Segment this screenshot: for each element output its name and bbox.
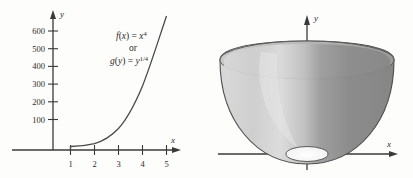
x-tick-label-5: 5 — [164, 159, 168, 169]
y-tick-label-200: 200 — [32, 97, 45, 107]
y-tick-label-100: 100 — [32, 115, 45, 125]
y-axis-arrowhead — [50, 10, 56, 19]
paraboloid-inner-shading — [224, 44, 390, 158]
x-tick-label-3: 3 — [116, 159, 120, 169]
y-tick-label-500: 500 — [32, 44, 45, 54]
equation-line-3: g(y) = y1/4 — [110, 55, 149, 67]
y-tick-labels: 600 500 400 300 200 100 — [32, 26, 45, 125]
x-axis-label: x — [170, 135, 175, 145]
x-axis-arrowhead — [389, 151, 398, 157]
y-axis-arrowhead — [304, 15, 310, 25]
y-axis-label: y — [313, 13, 318, 23]
y-tick-label-300: 300 — [32, 79, 45, 89]
x-tick-label-2: 2 — [92, 159, 96, 169]
x-axis — [12, 147, 181, 153]
bottom-hole-ellipse — [286, 147, 328, 162]
x-axis-arrowhead — [172, 147, 181, 153]
figure-root: 600 500 400 300 200 100 1 2 3 4 5 y x — [0, 0, 413, 178]
equation-line-2: or — [129, 43, 138, 53]
left-graph-panel: 600 500 400 300 200 100 1 2 3 4 5 y x — [0, 0, 206, 178]
right-solid-panel: y x — [206, 0, 413, 178]
y-axis-label: y — [59, 9, 64, 19]
x-tick-label-4: 4 — [140, 159, 145, 169]
x-axis-label: x — [386, 139, 391, 149]
y-tick-label-400: 400 — [32, 61, 45, 71]
x-tick-label-1: 1 — [68, 159, 72, 169]
x-tick-labels: 1 2 3 4 5 — [68, 159, 168, 169]
equation-line-1: f(x) = x4 — [116, 30, 148, 42]
y-tick-label-600: 600 — [32, 26, 45, 36]
